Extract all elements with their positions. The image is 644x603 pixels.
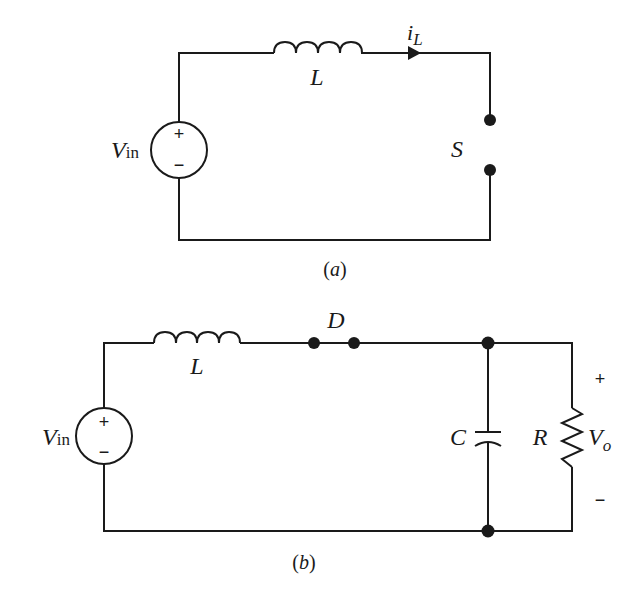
inductor-a-label: L xyxy=(309,64,323,90)
wire-a-top-right xyxy=(361,53,490,120)
diode-contact-left-icon xyxy=(308,337,320,349)
circuit-a: + − Vin L iL S (a) xyxy=(111,20,496,281)
caption-b: (b) xyxy=(292,551,315,574)
circuit-figure: + − Vin L iL S (a) xyxy=(0,0,644,603)
inductor-b-label: L xyxy=(189,353,203,379)
output-plus: + xyxy=(595,369,606,389)
diode-label: D xyxy=(326,307,344,333)
wire-b-bottom xyxy=(104,464,572,531)
output-voltage-label: Vo xyxy=(588,424,611,455)
source-b-minus: − xyxy=(99,442,110,462)
diode-contact-right-icon xyxy=(348,337,360,349)
wire-a-right-bottom xyxy=(179,170,490,240)
node-bottom-icon xyxy=(482,525,495,538)
source-a-label: Vin xyxy=(111,137,139,163)
capacitor-label: C xyxy=(450,424,467,450)
node-top-icon xyxy=(482,337,495,350)
inductor-b-icon xyxy=(154,332,240,343)
resistor-label: R xyxy=(532,424,548,450)
source-b-plus: + xyxy=(99,412,110,432)
circuit-b: + − Vin L D C R Vo + − (b) xyxy=(42,307,611,574)
inductor-a-icon xyxy=(274,42,362,53)
current-label: iL xyxy=(407,20,423,49)
switch-contact-top-icon xyxy=(484,114,496,126)
wire-b-top-right xyxy=(354,343,572,408)
caption-a: (a) xyxy=(323,258,346,281)
source-a-plus: + xyxy=(174,124,185,144)
switch-contact-bottom-icon xyxy=(484,164,496,176)
wire-a-top-left xyxy=(179,53,274,122)
source-b-label: Vin xyxy=(42,424,70,450)
switch-label: S xyxy=(451,136,463,162)
wire-b-left xyxy=(104,343,154,408)
output-minus: − xyxy=(595,490,606,510)
resistor-icon xyxy=(562,408,582,467)
source-a-minus: − xyxy=(174,155,185,175)
